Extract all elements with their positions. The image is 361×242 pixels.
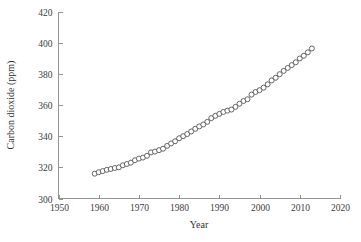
data-marker-group [92,46,314,176]
x-tick-label: 2010 [291,203,310,213]
data-point [305,50,310,55]
data-point [309,46,314,51]
y-tick-label-group: 300320340360380400420 [38,8,53,205]
data-point [293,60,298,65]
y-tick-group [59,13,63,200]
x-tick-label: 1960 [90,203,109,213]
x-tick-label: 1990 [210,203,229,213]
x-axis-title: Year [190,219,209,230]
x-tick-label: 2000 [251,203,270,213]
y-tick-label: 320 [38,163,53,173]
chart-container: 300320340360380400420 195019601970198019… [0,0,361,242]
x-tick-label-group: 19501960197019801990200020102020 [50,203,350,213]
y-tick-label: 340 [38,132,53,142]
x-tick-group [60,195,341,199]
y-tick-label: 400 [38,39,53,49]
y-tick-label: 380 [38,70,53,80]
co2-scatter-plot: 300320340360380400420 195019601970198019… [0,0,361,242]
y-tick-label: 420 [38,8,53,18]
y-axis-title: Carbon dioxide (ppm) [5,61,17,150]
x-tick-label: 1970 [130,203,149,213]
x-tick-label: 2020 [331,203,350,213]
data-point [205,119,210,124]
data-point [265,82,270,87]
x-tick-label: 1980 [170,203,189,213]
y-tick-label: 360 [38,101,53,111]
data-point [245,97,250,102]
x-tick-label: 1950 [50,203,69,213]
